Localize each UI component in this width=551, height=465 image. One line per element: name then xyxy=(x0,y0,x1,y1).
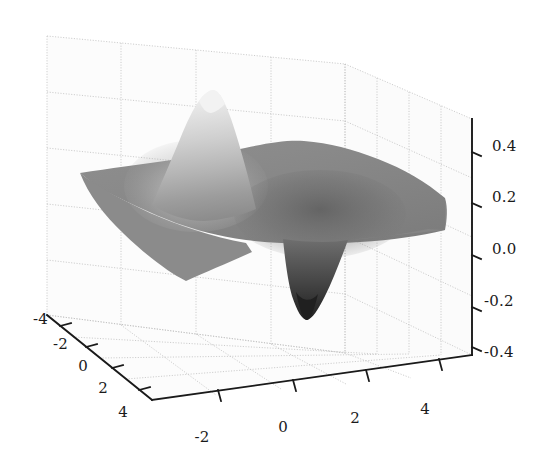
z-tick-label: -0.2 xyxy=(484,294,514,309)
y-tick-label: -2 xyxy=(28,337,68,352)
y-tick-label: -4 xyxy=(8,312,48,327)
figure-canvas: 0.4 0.2 0.0 -0.2 -0.4 -4 -2 0 2 4 -2 0 2… xyxy=(0,0,551,465)
x-tick-label: 4 xyxy=(405,402,445,417)
y-tick-label: 4 xyxy=(88,405,128,420)
z-tick-label: -0.4 xyxy=(484,345,514,360)
y-tick-label: 0 xyxy=(48,359,88,374)
x-tick-label: 2 xyxy=(335,411,375,426)
z-tick-label: 0.0 xyxy=(492,242,516,257)
tick-marks-z xyxy=(472,152,481,351)
x-tick-label: 0 xyxy=(263,420,303,435)
y-tick-label: 2 xyxy=(68,381,108,396)
z-tick-label: 0.2 xyxy=(492,190,516,205)
x-tick-label: -2 xyxy=(182,430,222,445)
z-tick-label: 0.4 xyxy=(492,139,516,154)
